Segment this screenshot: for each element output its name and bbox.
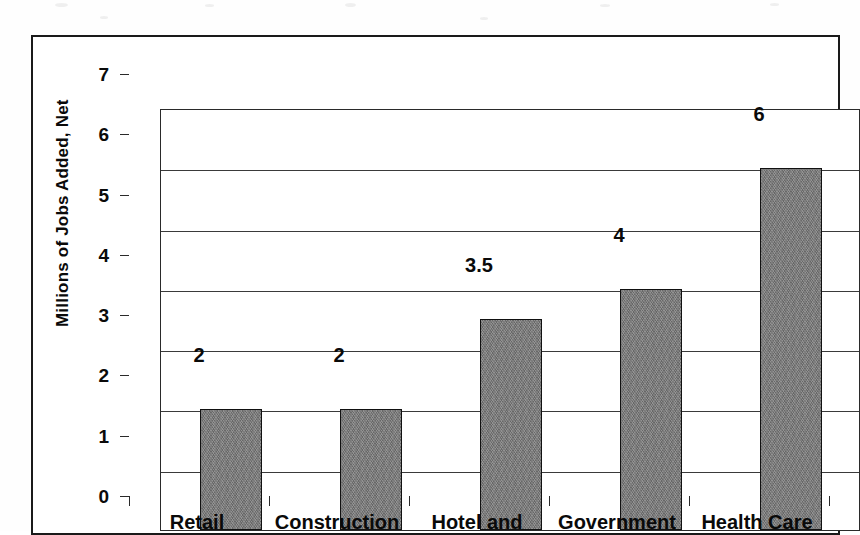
y-tick-label: 7 bbox=[83, 65, 109, 84]
bar-value-label: 2 bbox=[193, 345, 204, 365]
x-tick-mark bbox=[549, 496, 550, 506]
x-tick-mark bbox=[129, 496, 130, 506]
x-tick-mark bbox=[689, 496, 690, 506]
y-tick-label: 4 bbox=[83, 245, 109, 264]
y-tick-mark bbox=[120, 496, 129, 497]
bar-hotel-and bbox=[480, 319, 542, 530]
bar-value-label: 3.5 bbox=[465, 255, 493, 275]
y-tick-mark bbox=[120, 436, 129, 437]
bar-value-label: 6 bbox=[753, 104, 764, 124]
x-axis-label: Hotel and bbox=[431, 512, 522, 532]
y-tick-mark bbox=[120, 195, 129, 196]
gridline bbox=[161, 170, 859, 171]
scan-artifact bbox=[770, 3, 779, 6]
x-axis-label: Construction bbox=[275, 512, 399, 532]
y-tick-mark bbox=[120, 375, 129, 376]
bar-government bbox=[620, 289, 682, 530]
scan-artifact bbox=[205, 4, 214, 7]
x-tick-mark bbox=[409, 496, 410, 506]
y-tick-mark bbox=[120, 315, 129, 316]
y-axis-title: Millions of Jobs Added, Net bbox=[53, 100, 73, 328]
y-tick-mark bbox=[120, 74, 129, 75]
chart-outer-frame: Millions of Jobs Added, Net 01234567223.… bbox=[31, 35, 840, 535]
y-tick-label: 2 bbox=[83, 366, 109, 385]
scan-artifact bbox=[100, 16, 108, 19]
bar-value-label: 4 bbox=[613, 225, 624, 245]
y-tick-label: 5 bbox=[83, 185, 109, 204]
x-axis-label: Retail bbox=[170, 512, 224, 532]
bar-health-care bbox=[760, 168, 822, 530]
scan-artifact bbox=[345, 3, 356, 7]
x-axis-label: Government bbox=[558, 512, 676, 532]
scan-artifact bbox=[600, 4, 610, 7]
x-tick-mark bbox=[269, 496, 270, 506]
x-tick-mark bbox=[829, 496, 830, 506]
x-axis-label: Health Care bbox=[701, 512, 812, 532]
gridline bbox=[161, 291, 859, 292]
scan-artifact bbox=[55, 3, 68, 7]
y-tick-label: 0 bbox=[83, 487, 109, 506]
y-tick-mark bbox=[120, 255, 129, 256]
scan-artifact bbox=[480, 17, 488, 20]
plot-area bbox=[160, 109, 860, 531]
bar-value-label: 2 bbox=[333, 345, 344, 365]
y-tick-label: 1 bbox=[83, 426, 109, 445]
y-tick-label: 3 bbox=[83, 306, 109, 325]
y-tick-mark bbox=[120, 134, 129, 135]
gridline bbox=[161, 231, 859, 232]
y-tick-label: 6 bbox=[83, 125, 109, 144]
